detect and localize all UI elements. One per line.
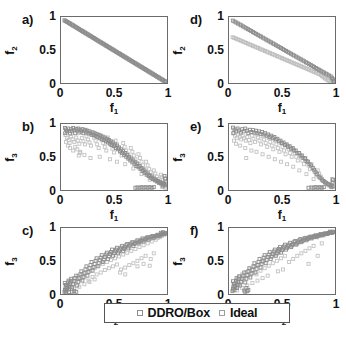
figure-panel-grid: a)00.5100.51f2f1d)00.5100.51f2f1b)00.510… — [0, 0, 346, 341]
x-tick-label: 0 — [57, 193, 64, 207]
x-axis-label-b: f1 — [110, 208, 118, 223]
plot-area-a — [60, 16, 168, 84]
scatter-layer-d — [229, 17, 336, 84]
y-axis-label-c: f3 — [3, 253, 18, 271]
legend-label: Ideal — [230, 306, 258, 320]
x-tick-label: 0.5 — [106, 86, 123, 100]
legend-label: DDRO/Box — [148, 306, 210, 320]
y-tick-label: 0.5 — [194, 150, 224, 164]
scatter-layer-c — [61, 228, 168, 295]
series-ideal — [232, 132, 335, 189]
y-axis-label-a: f2 — [3, 42, 18, 60]
plot-area-d — [228, 16, 336, 84]
y-tick-label: 0.5 — [194, 254, 224, 268]
plot-area-c — [60, 227, 168, 295]
y-tick-label: 0.5 — [26, 254, 56, 268]
y-tick-label: 0 — [194, 77, 224, 91]
x-tick-label: 0.5 — [106, 193, 123, 207]
plot-area-f — [228, 227, 336, 295]
series-ddro-box — [63, 231, 167, 294]
x-tick-label: 1 — [333, 193, 340, 207]
plot-area-e — [228, 123, 336, 191]
legend: DDRO/BoxIdeal — [104, 303, 290, 323]
y-tick-label: 0 — [194, 184, 224, 198]
y-tick-label: 1 — [194, 220, 224, 234]
y-axis-label-d: f2 — [171, 42, 186, 60]
y-axis-label-b: f3 — [3, 149, 18, 167]
x-tick-label: 0 — [57, 297, 64, 311]
x-axis-label-a: f1 — [110, 101, 118, 116]
x-tick-label: 0 — [225, 86, 232, 100]
y-tick-label: 0 — [26, 288, 56, 302]
y-tick-label: 0.5 — [26, 150, 56, 164]
y-tick-label: 1 — [194, 9, 224, 23]
x-tick-label: 1 — [165, 193, 172, 207]
y-tick-label: 1 — [26, 220, 56, 234]
y-tick-label: 1 — [194, 116, 224, 130]
x-tick-label: 1 — [333, 86, 340, 100]
y-tick-label: 1 — [26, 9, 56, 23]
y-axis-label-f: f3 — [171, 253, 186, 271]
series-ddro-box — [231, 230, 335, 293]
legend-entry-1: Ideal — [219, 306, 258, 320]
y-tick-label: 0.5 — [26, 43, 56, 57]
x-tick-label: 0 — [225, 193, 232, 207]
y-tick-label: 0 — [26, 184, 56, 198]
x-tick-label: 0.5 — [274, 86, 291, 100]
legend-entry-0: DDRO/Box — [137, 306, 210, 320]
scatter-layer-f — [229, 228, 336, 295]
legend-marker-square-icon — [219, 310, 225, 316]
x-tick-label: 1 — [165, 86, 172, 100]
series-ideal — [231, 36, 334, 84]
series-ddro-box — [64, 126, 167, 189]
y-tick-label: 0.5 — [194, 43, 224, 57]
x-axis-label-d: f1 — [278, 101, 286, 116]
x-tick-label: 0.5 — [274, 193, 291, 207]
y-tick-label: 0 — [26, 77, 56, 91]
y-tick-label: 0 — [194, 288, 224, 302]
y-tick-label: 1 — [26, 116, 56, 130]
x-axis-label-e: f1 — [278, 208, 286, 223]
plot-area-b — [60, 123, 168, 191]
legend-marker-square-icon — [137, 310, 143, 316]
scatter-layer-b — [61, 124, 168, 191]
scatter-layer-a — [61, 17, 168, 84]
y-axis-label-e: f3 — [171, 149, 186, 167]
x-tick-label: 1 — [333, 297, 340, 311]
x-tick-label: 0 — [57, 86, 64, 100]
scatter-layer-e — [229, 124, 336, 191]
